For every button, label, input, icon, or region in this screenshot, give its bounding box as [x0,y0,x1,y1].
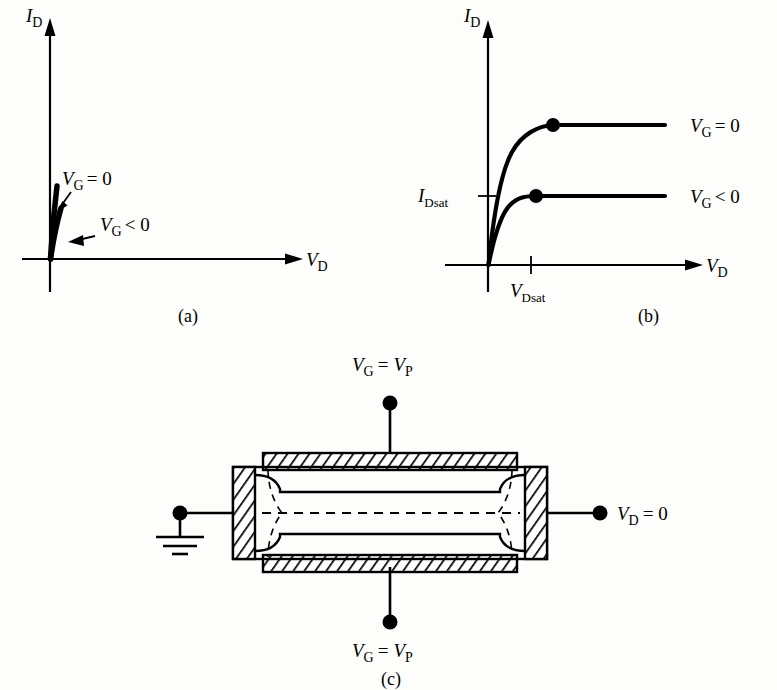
curve-label-vg-zero-b: VG= 0 [690,115,740,140]
bottom-gate-node [383,615,398,630]
leader-arrow-vg-zero-a [57,192,71,212]
drain-node [593,506,608,521]
x-axis-a [22,254,303,265]
x-axis-label-b: VD [706,255,728,280]
y-axis-label-a: ID [25,5,42,30]
panel-a-plot: ID VD VG= 0 VG< 0 [0,0,400,345]
x-axis-b [445,260,703,271]
drain-label: VD= 0 [617,503,668,528]
figure-root: ID VD VG= 0 VG< 0 [0,0,777,690]
drain-contact [525,467,547,559]
saturation-dot-vg-zero [546,118,560,132]
panel-a: ID VD VG= 0 VG< 0 [0,0,400,345]
depletion-boundary-top [255,475,525,492]
source-contact [233,467,255,559]
ground-icon [156,513,204,554]
x-tick-label-vdsat: VDsat [510,280,546,305]
annotation-vg-zero-a: VG= 0 [62,168,112,193]
leader-arrow-vg-negative-a [68,235,95,246]
y-tick-label-idsat: IDsat [417,185,449,210]
panel-c-diagram: VG=VP [0,345,777,690]
curve-vg-negative-b [489,196,666,265]
curve-label-vg-negative-b: VG< 0 [690,186,740,211]
panel-a-caption: (a) [178,306,198,327]
saturation-dot-vg-negative [529,189,543,203]
annotation-vg-negative-a: VG< 0 [100,214,150,239]
y-axis-label-b: ID [463,5,480,30]
panel-b: ID VD IDsat VDsat VG= 0 [400,0,777,345]
panel-c-caption: (c) [381,669,401,690]
panel-c: VG=VP [0,345,777,690]
x-axis-label-a: VD [306,249,328,274]
depletion-boundary-bottom [255,534,525,551]
panel-b-plot: ID VD IDsat VDsat VG= 0 [400,0,777,345]
panel-b-caption: (b) [638,306,659,327]
top-gate-label: VG=VP [352,354,413,379]
bottom-gate-label: VG=VP [352,640,413,665]
